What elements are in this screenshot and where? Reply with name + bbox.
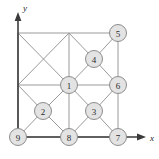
mesh-node-4[interactable]: 4 <box>86 51 103 68</box>
y-axis-arrowhead <box>15 12 22 21</box>
mesh-figure: x y 123456789 <box>0 0 159 159</box>
node-label: 6 <box>116 81 121 91</box>
node-label: 5 <box>116 29 121 39</box>
mesh-diagram: x y 123456789 <box>0 0 159 159</box>
node-label: 9 <box>16 133 21 143</box>
mesh-node-9[interactable]: 9 <box>10 129 27 146</box>
y-axis-label: y <box>22 3 27 13</box>
mesh-node-2[interactable]: 2 <box>35 103 52 120</box>
node-label: 7 <box>116 133 121 143</box>
mesh-node-8[interactable]: 8 <box>61 129 78 146</box>
node-label: 2 <box>41 107 46 117</box>
node-label: 8 <box>67 133 72 143</box>
x-axis-label: x <box>149 133 154 143</box>
mesh-node-3[interactable]: 3 <box>86 103 103 120</box>
mesh-node-6[interactable]: 6 <box>110 77 127 94</box>
axes: x y <box>15 3 154 143</box>
mesh-node-7[interactable]: 7 <box>110 129 127 146</box>
node-label: 4 <box>92 55 97 65</box>
x-axis-arrowhead <box>137 134 146 141</box>
mesh-node-5[interactable]: 5 <box>110 25 127 42</box>
node-label: 3 <box>92 107 97 117</box>
node-label: 1 <box>67 81 72 91</box>
mesh-node-1[interactable]: 1 <box>61 77 78 94</box>
